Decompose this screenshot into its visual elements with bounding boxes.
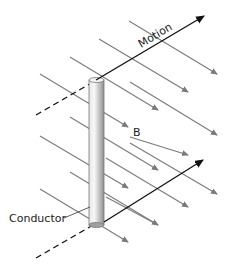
dashed-line-bottom [36, 225, 93, 258]
diagram-conductor-in-magnetic-field: Motion B Conductor [0, 0, 233, 273]
motion-arrow-top [96, 16, 204, 80]
dashed-line-top [36, 82, 93, 115]
magnetic-field-lines [40, 21, 217, 242]
motion-arrow-bottom [104, 160, 203, 222]
field-label-b: B [133, 126, 141, 139]
motion-label: Motion [136, 20, 175, 50]
conductor-cylinder [89, 78, 104, 228]
conductor-label: Conductor [9, 212, 66, 225]
